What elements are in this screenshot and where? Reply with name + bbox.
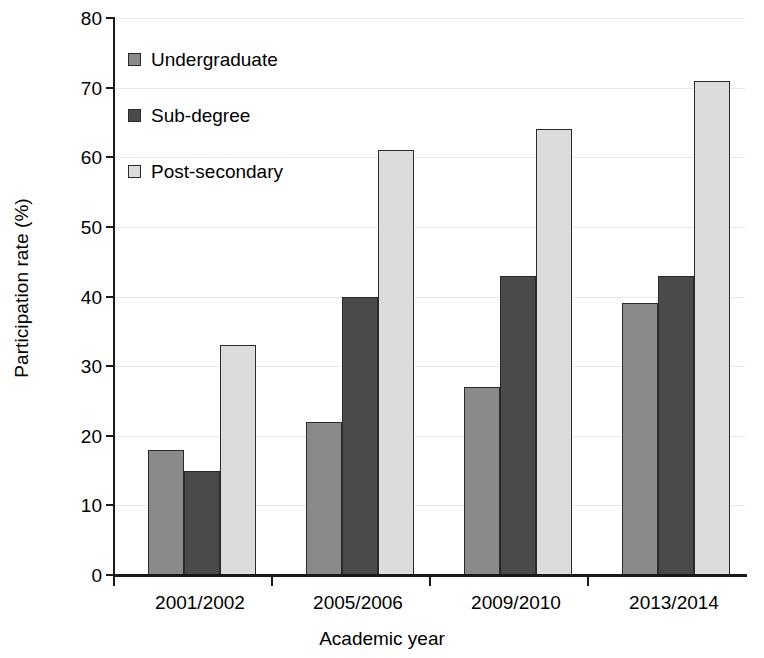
y-tick-mark xyxy=(106,504,115,506)
y-tick-label: 60 xyxy=(56,148,102,167)
x-axis-title-text: Academic year xyxy=(319,628,445,649)
bar xyxy=(342,297,378,576)
chart-legend: UndergraduateSub-degreePost-secondary xyxy=(128,47,283,215)
y-axis-tick-labels: 01020304050607080 xyxy=(44,0,102,658)
bar xyxy=(500,276,536,575)
y-tick-mark xyxy=(106,226,115,228)
bar xyxy=(306,422,342,575)
y-tick-mark xyxy=(106,156,115,158)
bar xyxy=(536,129,572,575)
legend-item: Undergraduate xyxy=(128,47,283,71)
y-tick-label: 20 xyxy=(56,426,102,445)
bar-chart-figure: Participation rate (%) 01020304050607080… xyxy=(0,0,764,658)
legend-item: Post-secondary xyxy=(128,159,283,183)
bar xyxy=(148,450,184,575)
legend-swatch-icon xyxy=(128,165,141,178)
bar xyxy=(622,303,658,575)
y-tick-mark xyxy=(106,17,115,19)
bar xyxy=(378,150,414,575)
x-tick-mark xyxy=(587,576,589,586)
x-tick-mark xyxy=(271,576,273,586)
y-axis-title: Participation rate (%) xyxy=(6,0,38,575)
bar xyxy=(464,387,500,575)
bar xyxy=(220,345,256,575)
y-tick-label: 10 xyxy=(56,496,102,515)
y-tick-label: 70 xyxy=(56,78,102,97)
bar xyxy=(694,81,730,575)
legend-label: Post-secondary xyxy=(151,162,283,181)
x-axis-title: Academic year xyxy=(0,628,764,650)
y-tick-mark xyxy=(106,296,115,298)
y-tick-mark xyxy=(106,87,115,89)
x-tick-mark xyxy=(429,576,431,586)
x-tick-label: 2013/2014 xyxy=(629,592,719,614)
y-tick-label: 40 xyxy=(56,287,102,306)
legend-label: Undergraduate xyxy=(151,50,278,69)
x-tick-label: 2005/2006 xyxy=(313,592,403,614)
x-tick-label: 2009/2010 xyxy=(471,592,561,614)
legend-swatch-icon xyxy=(128,53,141,66)
bar xyxy=(658,276,694,575)
y-tick-label: 0 xyxy=(56,566,102,585)
legend-swatch-icon xyxy=(128,109,141,122)
x-tick-label: 2001/2002 xyxy=(155,592,245,614)
x-tick-mark xyxy=(113,576,115,586)
y-tick-label: 30 xyxy=(56,357,102,376)
y-tick-mark xyxy=(106,435,115,437)
legend-item: Sub-degree xyxy=(128,103,283,127)
legend-label: Sub-degree xyxy=(151,106,250,125)
y-tick-mark xyxy=(106,365,115,367)
y-axis-title-text: Participation rate (%) xyxy=(11,198,33,378)
y-tick-label: 50 xyxy=(56,217,102,236)
bar xyxy=(184,471,220,575)
y-tick-label: 80 xyxy=(56,9,102,28)
